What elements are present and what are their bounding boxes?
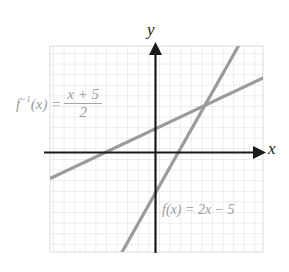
inverse-function-label: f−1(x) = x + 5 2 — [16, 88, 102, 121]
graph-figure: y x f−1(x) = x + 5 2 f(x) = 2x − 5 — [0, 0, 289, 272]
fraction-denominator: 2 — [76, 104, 90, 120]
inverse-function-exponent: −1 — [20, 95, 31, 104]
x-axis-label: x — [268, 139, 276, 159]
fraction-numerator: x + 5 — [64, 87, 102, 103]
inverse-function-fraction: x + 5 2 — [64, 87, 102, 120]
inverse-function-argument: (x) = — [31, 97, 62, 112]
y-axis-label: y — [147, 20, 155, 40]
function-label: f(x) = 2x − 5 — [162, 203, 235, 217]
coordinate-plane — [0, 0, 289, 272]
